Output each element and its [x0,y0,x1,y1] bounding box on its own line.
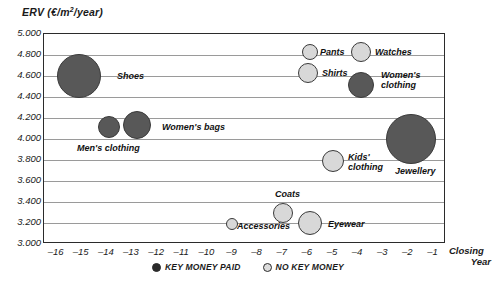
gridline [44,160,444,161]
x-axis-tick-label: –4 [345,246,369,257]
bubble-pants[interactable] [302,44,318,60]
y-axis-title: ERV (€/m2/year) [22,5,103,18]
plot-area: ShoesMen's clothingWomen's bagsWomen's c… [43,33,445,243]
bubble-jewellery[interactable] [386,114,436,164]
x-axis-tick-label: –2 [395,246,419,257]
y-axis-tick-label: 4.000 [0,132,41,143]
bubble-label-accessories: Accessories [237,221,290,231]
x-axis-tick-label: –14 [94,246,118,257]
y-axis-tick-label: 3.200 [0,216,41,227]
bubble-chart: ERV (€/m2/year) ShoesMen's clothingWomen… [0,0,496,282]
bubble-watches[interactable] [351,42,371,62]
bubble-label-coats: Coats [275,189,300,199]
legend-label: NO KEY MONEY [276,262,344,272]
y-axis-tick-label: 3.400 [0,195,41,206]
bubble-kids-clothing[interactable] [322,150,344,172]
y-axis-tick-label: 4.600 [0,69,41,80]
x-axis-tick-label: –10 [194,246,218,257]
bubble-label-women-s-bags: Women's bags [162,122,225,132]
x-axis-tick-label: –5 [320,246,344,257]
y-axis-tick-label: 5.000 [0,27,41,38]
bubble-label-pants: Pants [320,47,345,57]
bubble-women-s-bags[interactable] [123,111,151,139]
gridline [44,181,444,182]
bubble-men-s-clothing[interactable] [98,116,120,138]
y-axis-tick-label: 4.800 [0,48,41,59]
y-axis-tick-label: 3.000 [0,237,41,248]
bubble-eyewear[interactable] [298,211,322,235]
y-axis-tick-label: 4.200 [0,111,41,122]
x-axis-tick-label: –6 [295,246,319,257]
x-axis-tick-label: –12 [144,246,168,257]
bubble-label-eyewear: Eyewear [328,219,365,229]
y-axis-tick-label: 3.600 [0,174,41,185]
legend-swatch-nokey-icon [263,263,272,272]
x-axis-tick-label: –9 [219,246,243,257]
bubble-label-jewellery: Jewellery [395,166,436,176]
bubble-label-kids-clothing: Kids' clothing [348,152,383,172]
x-axis-title-line1: Closing [449,245,484,256]
x-axis-tick-label: –13 [119,246,143,257]
legend-item-nokey[interactable]: NO KEY MONEY [263,262,344,272]
x-axis-tick-label: –8 [245,246,269,257]
y-axis-tick-label: 4.400 [0,90,41,101]
x-axis-tick-label: –7 [270,246,294,257]
bubble-shirts[interactable] [298,63,318,83]
x-axis-tick-label: –11 [169,246,193,257]
bubble-label-shirts: Shirts [322,68,348,78]
y-axis-title-text: ERV (€/m2/year) [22,6,103,18]
gridline [44,202,444,203]
legend-swatch-paid-icon [152,263,161,272]
bubble-label-shoes: Shoes [117,71,144,81]
x-axis-tick-label: –16 [44,246,68,257]
x-axis-tick-label: –3 [370,246,394,257]
gridline [44,139,444,140]
legend-label: KEY MONEY PAID [165,262,241,272]
bubble-label-men-s-clothing: Men's clothing [77,143,140,153]
bubble-coats[interactable] [273,203,293,223]
legend-item-paid[interactable]: KEY MONEY PAID [152,262,241,272]
bubble-label-women-s-clothing: Women's clothing [381,70,420,90]
x-axis-tick-label: –15 [69,246,93,257]
chart-legend: KEY MONEY PAIDNO KEY MONEY [0,262,496,272]
bubble-women-s-clothing[interactable] [348,72,374,98]
bubble-shoes[interactable] [57,54,101,98]
x-axis-tick-label: –1 [420,246,444,257]
y-axis-tick-label: 3.800 [0,153,41,164]
bubble-label-watches: Watches [375,47,412,57]
gridline [44,97,444,98]
